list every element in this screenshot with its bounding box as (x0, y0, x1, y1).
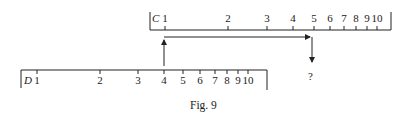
scale-c-label: 9 (364, 12, 370, 24)
scale-d-label: 1 (34, 74, 40, 86)
scale-d-label: 10 (243, 74, 255, 86)
scale-d-label: 2 (97, 74, 103, 86)
scale-d-label: 5 (180, 74, 186, 86)
scale-c-label: 3 (264, 12, 270, 24)
scale-c-label: 8 (353, 12, 359, 24)
scale-c-label: 2 (225, 12, 231, 24)
scale-c-name: C (152, 12, 160, 24)
scale-c-label: 1 (162, 12, 168, 24)
figure-caption: Fig. 9 (190, 99, 217, 112)
scale-d-label: 9 (235, 74, 241, 86)
scale-c-label: 6 (327, 12, 333, 24)
scale-d (21, 70, 267, 90)
scale-d-label: 3 (135, 74, 141, 86)
scale-c-label: 7 (341, 12, 347, 24)
result-question-mark: ? (308, 70, 313, 82)
scale-d-label: 8 (224, 74, 230, 86)
scale-c-label: 10 (372, 12, 384, 24)
scale-d-label: 7 (212, 74, 218, 86)
arrow-path (164, 37, 312, 66)
scale-d-label: 4 (161, 74, 167, 86)
scale-d-name: D (23, 74, 32, 86)
scale-c-label: 5 (311, 12, 317, 24)
slide-rule-diagram: C 12345678910 D 12345678910 ? Fig. 9 (0, 0, 412, 118)
scale-c-label: 4 (290, 12, 296, 24)
scale-d-label: 6 (197, 74, 203, 86)
